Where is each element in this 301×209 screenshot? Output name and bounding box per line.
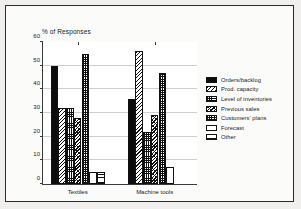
bars-layer	[43, 42, 197, 184]
x-axis-tick-label: Textiles	[68, 189, 88, 195]
legend: Orders/backlogProd. capacityLevel of inv…	[206, 75, 298, 142]
x-axis-tick-mark	[155, 42, 156, 45]
bar	[143, 132, 151, 184]
legend-item[interactable]: Orders/backlog	[206, 75, 298, 85]
bar	[82, 54, 90, 184]
bar	[128, 99, 136, 184]
bar	[51, 66, 59, 184]
legend-swatch-icon	[206, 115, 217, 121]
y-axis-tick-label: 50	[33, 57, 40, 63]
legend-item-label: Customers' plans	[221, 115, 266, 121]
plot-area: 0102030405060 TextilesMachine tools	[42, 42, 197, 185]
y-axis-tick-label: 10	[33, 151, 40, 157]
bar	[97, 172, 105, 184]
y-axis-tick-label: 60	[33, 33, 40, 39]
legend-item[interactable]: Customers' plans	[206, 113, 298, 123]
chart-title: % of Responses	[42, 28, 91, 35]
y-axis-tick-label: 40	[33, 80, 40, 86]
legend-swatch-icon	[206, 134, 217, 140]
figure-frame: % of Responses 0102030405060 TextilesMac…	[5, 5, 294, 202]
bar	[89, 172, 97, 184]
bar	[151, 115, 159, 184]
legend-item-label: Previous sales	[221, 106, 259, 112]
legend-item[interactable]: Level of inventories	[206, 94, 298, 104]
legend-swatch-icon	[206, 106, 217, 112]
bar	[74, 118, 82, 184]
bar	[58, 108, 66, 184]
bar	[66, 108, 74, 184]
y-axis-tick-label: 20	[33, 128, 40, 134]
legend-item[interactable]: Prod. capacity	[206, 85, 298, 95]
legend-item[interactable]: Other	[206, 133, 298, 143]
y-axis-tick-label: 30	[33, 104, 40, 110]
legend-swatch-icon	[206, 125, 217, 131]
y-axis-tick-label: 0	[37, 175, 40, 181]
legend-swatch-icon	[206, 86, 217, 92]
legend-item-label: Other	[221, 134, 236, 140]
legend-item-label: Forecast	[221, 125, 244, 131]
legend-swatch-icon	[206, 96, 217, 102]
x-axis-tick-mark	[78, 42, 79, 45]
legend-item-label: Orders/backlog	[221, 77, 261, 83]
bar	[166, 167, 174, 184]
bar	[135, 51, 143, 184]
legend-swatch-icon	[206, 77, 217, 83]
bar-chart-figure: % of Responses 0102030405060 TextilesMac…	[0, 0, 301, 209]
legend-item[interactable]: Previous sales	[206, 104, 298, 114]
legend-item-label: Level of inventories	[221, 96, 272, 102]
legend-item[interactable]: Forecast	[206, 123, 298, 133]
bar	[159, 73, 167, 184]
x-axis-tick-label: Machine tools	[136, 189, 173, 195]
legend-item-label: Prod. capacity	[221, 86, 258, 92]
